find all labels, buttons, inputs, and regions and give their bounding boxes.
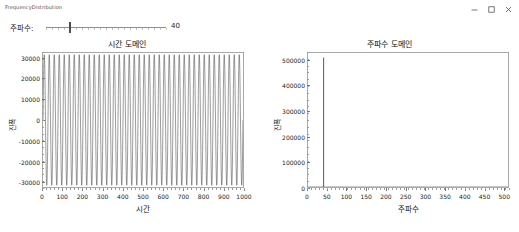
y-axis-minor-tick [307,147,309,148]
time-domain-xlabel: 시간 [42,203,244,214]
x-axis-minor-tick [54,188,55,190]
x-axis-minor-tick [351,188,352,190]
x-axis-minor-tick [489,188,490,190]
x-axis-minor-tick [220,188,221,190]
x-axis-minor-tick [424,188,425,190]
y-axis-minor-tick [42,100,44,101]
frequency-label: 주파수: [10,22,34,33]
x-axis-minor-tick [208,188,209,190]
x-axis-tick-label: 100 [341,193,352,200]
x-axis-minor-tick [432,188,433,190]
x-axis-minor-tick [412,188,413,190]
y-axis-minor-tick [42,113,44,114]
x-axis-minor-tick [339,188,340,190]
y-axis-tick-label: 0 [36,117,40,124]
x-axis-tick-label: 800 [198,193,209,200]
y-axis-tick [307,60,310,61]
frequency-domain-chart: 주파수 도메인 진폭 주파수 0100000200000300000400000… [262,36,517,218]
y-axis-minor-tick [307,100,309,101]
y-axis-minor-tick [307,52,309,53]
maximize-button[interactable] [483,1,500,18]
x-axis-minor-tick [82,188,83,190]
x-axis-minor-tick [179,188,180,190]
x-axis-minor-tick [196,188,197,190]
x-axis-minor-tick [66,188,67,190]
x-axis-minor-tick [461,188,462,190]
x-axis-minor-tick [335,188,336,190]
x-axis-minor-tick [119,188,120,190]
y-axis-minor-tick [42,52,44,53]
y-axis-minor-tick [307,66,309,67]
x-axis-tick-label: 400 [459,193,470,200]
x-axis-minor-tick [200,188,201,190]
y-axis-tick-label: 200000 [282,133,305,140]
x-axis-tick [406,188,407,191]
x-axis-tick-label: 300 [420,193,431,200]
x-axis-minor-tick [428,188,429,190]
x-axis-minor-tick [95,188,96,190]
window-controls [466,0,517,19]
x-axis-minor-tick [127,188,128,190]
x-axis-tick-label: 400 [117,193,128,200]
x-axis-minor-tick [163,188,164,190]
x-axis-minor-tick [388,188,389,190]
x-axis-minor-tick [224,188,225,190]
x-axis-minor-tick [123,188,124,190]
x-axis-minor-tick [147,188,148,190]
close-button[interactable] [500,1,517,18]
x-axis-minor-tick [232,188,233,190]
x-axis-minor-tick [111,188,112,190]
application-window: FrequencyDistribution 주파수: 40 시간 도메인 진폭 … [0,0,519,221]
y-axis-minor-tick [42,120,44,121]
y-axis-tick-label: 500000 [282,56,305,63]
x-axis-minor-tick [191,188,192,190]
x-axis-minor-tick [139,188,140,190]
x-axis-minor-tick [452,188,453,190]
y-axis-minor-tick [307,120,309,121]
y-axis-minor-tick [42,93,44,94]
y-axis-minor-tick [307,188,309,189]
y-axis-tick-label: 100000 [282,159,305,166]
slider-thumb[interactable] [69,22,71,33]
y-axis-minor-tick [307,106,309,107]
x-axis-minor-tick [440,188,441,190]
x-axis-minor-tick [236,188,237,190]
time-domain-chart: 시간 도메인 진폭 시간 -30000-20000-10000010000200… [2,36,252,218]
x-axis-minor-tick [143,188,144,190]
x-axis-minor-tick [151,188,152,190]
x-axis-minor-tick [469,188,470,190]
frequency-slider[interactable] [46,19,166,36]
x-axis-minor-tick [384,188,385,190]
x-axis-minor-tick [78,188,79,190]
y-axis-minor-tick [307,93,309,94]
y-axis-minor-tick [42,134,44,135]
x-axis-minor-tick [187,188,188,190]
frequency-domain-ylabel: 진폭 [272,119,282,131]
x-axis-minor-tick [99,188,100,190]
y-axis-minor-tick [42,168,44,169]
y-axis-tick [307,137,310,138]
y-axis-minor-tick [42,86,44,87]
y-axis-minor-tick [307,168,309,169]
x-axis-minor-tick [167,188,168,190]
x-axis-minor-tick [46,188,47,190]
y-axis-minor-tick [42,106,44,107]
x-axis-tick-label: 350 [439,193,450,200]
x-axis-tick-label: 100 [56,193,67,200]
x-axis-minor-tick [501,188,502,190]
x-axis-minor-tick [473,188,474,190]
x-axis-minor-tick [135,188,136,190]
x-axis-minor-tick [216,188,217,190]
x-axis-minor-tick [74,188,75,190]
x-axis-minor-tick [62,188,63,190]
time-domain-waveform [43,55,243,186]
x-axis-tick-label: 200 [77,193,88,200]
y-axis-minor-tick [42,154,44,155]
y-axis-tick-label: -10000 [19,137,40,144]
y-axis-minor-tick [42,161,44,162]
y-axis-tick-label: 30000 [21,54,40,61]
x-axis-minor-tick [212,188,213,190]
x-axis-minor-tick [171,188,172,190]
x-axis-minor-tick [420,188,421,190]
minimize-button[interactable] [466,1,483,18]
